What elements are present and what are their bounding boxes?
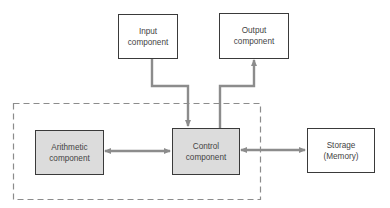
- control-component-label: Control component: [186, 141, 227, 163]
- storage-memory-label: Storage (Memory): [323, 140, 358, 162]
- output-component-label: Output component: [234, 25, 275, 47]
- diagram-canvas: [0, 0, 390, 208]
- input-component-box: Input component: [118, 14, 178, 59]
- storage-memory-box: Storage (Memory): [307, 128, 375, 173]
- control-component-box: Control component: [172, 128, 240, 175]
- edge-control-to-output: [220, 60, 254, 128]
- output-component-box: Output component: [219, 13, 289, 59]
- edge-input-to-control: [152, 58, 188, 126]
- input-component-label: Input component: [128, 26, 169, 48]
- arithmetic-component-box: Arithmetic component: [35, 130, 104, 175]
- arithmetic-component-label: Arithmetic component: [49, 142, 90, 164]
